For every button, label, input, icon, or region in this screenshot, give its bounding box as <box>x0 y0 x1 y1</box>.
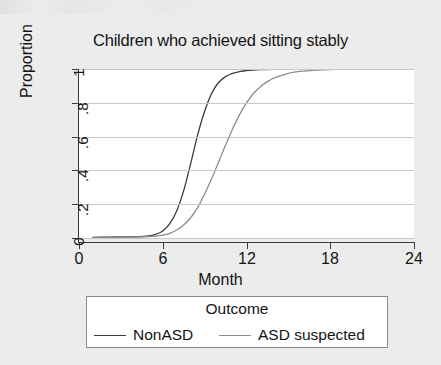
gridline <box>79 238 414 239</box>
x-axis-tick-label: 0 <box>59 250 99 268</box>
y-axis-tick-label: 1 <box>70 69 87 77</box>
y-axis-tick-label: .6 <box>74 137 91 150</box>
legend-entries: NonASDASD suspected <box>87 323 387 347</box>
gridline <box>79 170 414 171</box>
legend-label: ASD suspected <box>258 326 365 344</box>
x-axis-tick-label: 12 <box>227 250 267 268</box>
gridline <box>79 204 414 205</box>
series-line <box>93 69 358 237</box>
y-axis-title: Proportion <box>18 24 36 98</box>
x-axis-tick <box>414 243 415 249</box>
y-axis-line <box>78 69 79 242</box>
chart-title: Children who achieved sitting stably <box>0 31 441 50</box>
y-axis-tick-label: .8 <box>74 103 91 116</box>
x-axis-tick <box>79 243 80 249</box>
legend-label: NonASD <box>133 326 193 344</box>
x-axis-tick-label: 6 <box>143 250 183 268</box>
plot-panel <box>79 69 414 238</box>
y-axis-tick-label: .2 <box>74 204 91 217</box>
legend-box: Outcome NonASDASD suspected <box>86 296 388 348</box>
scan-artifact <box>0 0 441 14</box>
plot-lines <box>79 69 414 238</box>
series-line <box>93 69 358 237</box>
legend-title: Outcome <box>87 300 387 318</box>
gridline <box>79 103 414 104</box>
gridline <box>79 137 414 138</box>
y-axis-tick-label: .4 <box>74 170 91 183</box>
x-axis-tick-label: 18 <box>310 250 350 268</box>
legend-entry[interactable]: NonASD <box>94 323 193 347</box>
legend-entry[interactable]: ASD suspected <box>219 323 365 347</box>
x-axis-tick <box>247 243 248 249</box>
x-axis-tick-label: 24 <box>394 250 434 268</box>
x-axis-title: Month <box>0 271 441 289</box>
legend-line-swatch <box>94 335 126 336</box>
legend-line-swatch <box>219 335 251 336</box>
gridline <box>79 69 414 70</box>
x-axis-tick <box>163 243 164 249</box>
figure-canvas: Children who achieved sitting stably Pro… <box>0 0 441 365</box>
x-axis-tick <box>330 243 331 249</box>
